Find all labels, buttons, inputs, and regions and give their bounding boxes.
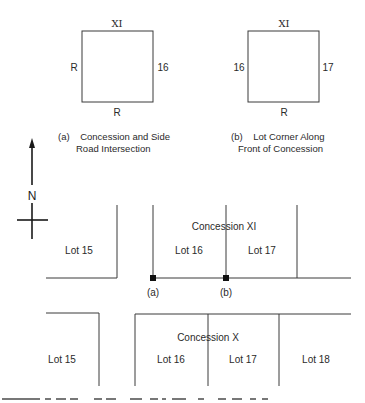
detail-a-box	[82, 31, 153, 102]
detail-a: XI R 16 R (a) Concession and Side Road I…	[58, 18, 170, 154]
detail-a-right-label: 16	[157, 62, 169, 73]
upper-lot-15: Lot 15	[65, 245, 93, 256]
detail-b-box	[248, 31, 319, 102]
detail-a-caption-line1: (a) Concession and Side	[58, 131, 170, 142]
north-label: N	[28, 189, 37, 203]
lower-lot-15: Lot 15	[48, 354, 76, 365]
marker-b-label: (b)	[220, 287, 232, 298]
upper-lot-16: Lot 16	[175, 245, 203, 256]
detail-b-bottom-label: R	[280, 107, 287, 118]
lower-map: Concession X Lot 15 Lot 16 Lot 17 Lot 18	[46, 313, 351, 386]
marker-b-icon	[223, 275, 229, 281]
marker-a-label: (a)	[147, 287, 159, 298]
detail-b: XI 16 17 R (b) Lot Corner Along Front of…	[231, 18, 334, 154]
cropped-caption-fragment	[0, 398, 365, 403]
detail-b-top-label: XI	[278, 18, 289, 29]
detail-a-bottom-label: R	[113, 107, 120, 118]
detail-b-caption-line2: Front of Concession	[238, 143, 323, 154]
upper-map: (a) (b) Concession XI Lot 15 Lot 16 Lot …	[46, 205, 351, 298]
detail-a-caption-line2: Road Intersection	[76, 143, 150, 154]
detail-a-top-label: XI	[111, 18, 122, 29]
detail-b-left-label: 16	[233, 62, 245, 73]
lower-lot-18: Lot 18	[302, 354, 330, 365]
survey-diagram: XI R 16 R (a) Concession and Side Road I…	[0, 0, 365, 403]
marker-a-icon	[150, 275, 156, 281]
lower-lot-16: Lot 16	[157, 354, 185, 365]
detail-b-caption-line1: (b) Lot Corner Along	[231, 131, 324, 142]
north-arrow-icon: N	[17, 138, 48, 239]
detail-b-right-label: 17	[322, 62, 334, 73]
concession-xi-label: Concession XI	[192, 221, 256, 232]
lower-lot-17: Lot 17	[229, 354, 257, 365]
upper-lot-17: Lot 17	[248, 245, 276, 256]
concession-x-label: Concession X	[177, 332, 239, 343]
detail-a-left-label: R	[70, 62, 77, 73]
